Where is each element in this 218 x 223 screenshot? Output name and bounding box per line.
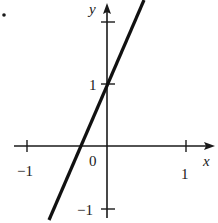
data-line	[49, 0, 144, 220]
y-tick-label-1: 1	[89, 77, 97, 93]
x-tick-label-1: 1	[181, 166, 189, 182]
bullet-marker	[2, 13, 6, 17]
graph: y x 0 −1 1 1 −1	[0, 0, 218, 223]
x-tick-label-neg1: −1	[17, 163, 33, 179]
y-axis-label: y	[87, 1, 96, 17]
x-axis-label: x	[202, 153, 210, 169]
origin-label: 0	[89, 153, 97, 169]
y-tick-label-neg1: −1	[77, 202, 93, 218]
